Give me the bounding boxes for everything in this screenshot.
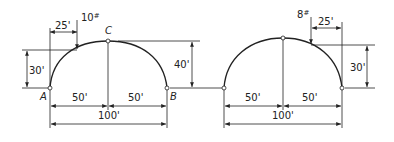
dim-30-label: 30' [29, 65, 44, 76]
dim-100-label: 100' [272, 110, 294, 121]
load-label: 10# [81, 12, 100, 23]
load-label: 8# [297, 9, 309, 20]
hinge-left [222, 86, 226, 90]
left-arch-curve [50, 41, 167, 88]
dim-40-label: 40' [174, 59, 189, 70]
point-c-label: C [105, 25, 112, 36]
point-b-label: B [170, 91, 177, 102]
dim-50-right-label: 50' [128, 92, 143, 103]
hinge-c [106, 39, 110, 43]
dim-100-label: 100' [98, 110, 120, 121]
left-arch-diagram: 10# 25' 30' 40' 50' 50' 100' A C B [22, 12, 222, 128]
point-a-label: A [39, 91, 47, 102]
hinge-right [340, 86, 344, 90]
hinge-b [165, 86, 169, 90]
dim-25-label: 25' [55, 20, 70, 31]
dim-50-left-label: 50' [245, 92, 260, 103]
dim-30-label: 30' [350, 62, 365, 73]
three-hinged-arch-figure: 10# 25' 30' 40' 50' 50' 100' A C B [0, 0, 394, 142]
hinge-a [48, 86, 52, 90]
dim-50-left-label: 50' [72, 92, 87, 103]
dim-50-right-label: 50' [302, 92, 317, 103]
dim-25-label: 25' [318, 16, 333, 27]
hinge-crown [281, 36, 285, 40]
right-arch-diagram: 8# 25' 30' 50' 50' 100' [222, 9, 375, 128]
